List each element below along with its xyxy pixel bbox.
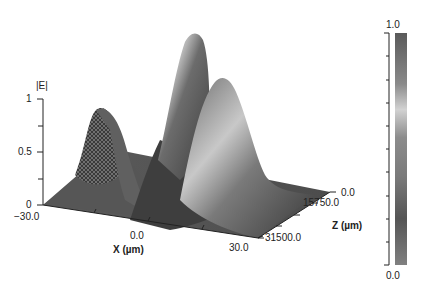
colorbar-min-label: 0.0 [386,270,400,281]
x-tick-mid: 0.0 [130,230,144,241]
x-tick-max: 30.0 [229,242,248,253]
y-tick-max: 31500.0 [265,232,301,243]
y-tick-0: 0.0 [341,187,355,198]
z-value-axis [37,99,43,205]
x-axis-title: X (µm) [113,244,144,255]
colorbar-axis [384,33,389,265]
z-tick-0: 0 [26,199,32,210]
y-axis-title: Z (µm) [332,220,362,231]
x-tick-min: −30.0 [14,211,39,222]
colorbar [395,33,407,265]
z-tick-05: 0.5 [18,146,32,157]
z-tick-1: 1 [26,93,32,104]
y-tick-mid: 15750.0 [303,197,339,208]
surface-plot [0,0,425,293]
colorbar-max-label: 1.0 [386,19,400,30]
z-axis-title: |E| [36,80,48,91]
